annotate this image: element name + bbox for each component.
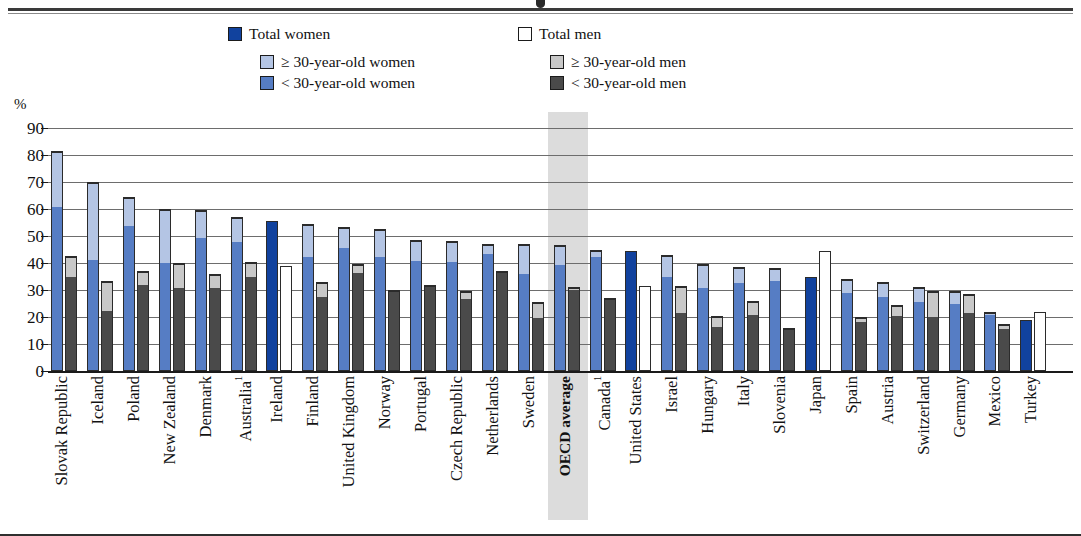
segment-women-30-plus xyxy=(591,251,601,258)
y-tick-label-10: 10 xyxy=(0,336,44,353)
bar-women xyxy=(410,240,422,371)
bar-women xyxy=(877,282,889,371)
segment-women-under-30 xyxy=(591,257,601,370)
y-tickmark-10 xyxy=(41,344,48,345)
bar-group xyxy=(159,128,185,371)
bar-group xyxy=(949,128,975,371)
title-descender-mark xyxy=(536,0,545,8)
segment-women-under-30 xyxy=(842,293,852,370)
bar-group xyxy=(590,128,616,371)
segment-men-under-30 xyxy=(964,313,974,370)
bar-women xyxy=(590,250,602,372)
segment-women-30-plus xyxy=(124,198,134,226)
bar-men xyxy=(675,286,687,371)
bar-group xyxy=(625,128,651,371)
chart-legend: Total womenTotal men≥ 30-year-old women≥… xyxy=(228,24,928,93)
y-tick-label-0: 0 xyxy=(0,363,44,380)
bar-group xyxy=(302,128,328,371)
bar-men xyxy=(963,294,975,371)
segment-total-men xyxy=(1035,313,1045,370)
bar-women xyxy=(841,279,853,371)
segment-men-30-plus xyxy=(353,265,363,273)
bar-women xyxy=(625,251,637,371)
legend-row: < 30-year-old women< 30-year-old men xyxy=(228,73,928,93)
segment-women-under-30 xyxy=(698,288,708,370)
x-axis-label: United Kingdom xyxy=(341,376,358,487)
legend-swatch-women-under-30 xyxy=(260,76,274,90)
bar-group xyxy=(1020,128,1046,371)
bar-men xyxy=(604,298,616,371)
y-tickmark-60 xyxy=(41,209,48,210)
bar-group xyxy=(266,128,292,371)
y-tick-label-60: 60 xyxy=(0,201,44,218)
segment-women-under-30 xyxy=(160,263,170,370)
bar-men xyxy=(532,302,544,371)
top-rule xyxy=(8,8,1073,11)
segment-total-women xyxy=(806,278,816,371)
segment-men-30-plus xyxy=(892,306,902,317)
bar-men xyxy=(352,264,364,371)
bar-group xyxy=(446,128,472,371)
bar-group xyxy=(984,128,1010,371)
y-tickmark-0 xyxy=(41,371,48,372)
segment-men-30-plus xyxy=(748,302,758,315)
segment-women-under-30 xyxy=(411,261,421,370)
bar-women xyxy=(266,221,278,371)
legend-row: ≥ 30-year-old women≥ 30-year-old men xyxy=(228,52,928,72)
legend-item-men-30-plus: ≥ 30-year-old men xyxy=(518,52,818,72)
segment-total-men xyxy=(820,252,830,370)
y-tick-label-40: 40 xyxy=(0,255,44,272)
segment-women-under-30 xyxy=(878,297,888,370)
segment-women-30-plus xyxy=(950,292,960,304)
segment-women-30-plus xyxy=(842,280,852,293)
y-tick-label-50: 50 xyxy=(0,228,44,245)
segment-men-30-plus xyxy=(712,317,722,327)
segment-women-30-plus xyxy=(339,228,349,248)
segment-women-under-30 xyxy=(124,226,134,370)
x-axis-label: Sweden xyxy=(521,376,538,428)
x-axis-label: Japan xyxy=(808,376,825,414)
legend-swatch-men-30-plus xyxy=(550,55,564,69)
y-tickmark-40 xyxy=(41,263,48,264)
x-axis-label: Spain xyxy=(844,376,861,414)
bar-group xyxy=(733,128,759,371)
x-axis-label: Germany xyxy=(952,376,969,437)
bar-men xyxy=(137,271,149,371)
bar-women xyxy=(518,244,530,371)
segment-men-under-30 xyxy=(784,330,794,370)
segment-men-under-30 xyxy=(353,273,363,370)
segment-women-under-30 xyxy=(88,260,98,370)
segment-men-30-plus xyxy=(210,275,220,288)
x-axis-label: Israel xyxy=(664,376,681,413)
y-tickmark-20 xyxy=(41,317,48,318)
bar-women xyxy=(1020,320,1032,371)
bar-men xyxy=(101,281,113,371)
x-axis-label: Slovak Republic xyxy=(54,376,71,486)
bar-women xyxy=(661,255,673,371)
bar-women xyxy=(51,151,63,371)
legend-swatch-men-under-30 xyxy=(550,76,564,90)
segment-men-under-30 xyxy=(928,317,938,370)
segment-women-30-plus xyxy=(411,241,421,261)
segment-women-under-30 xyxy=(662,277,672,370)
segment-men-under-30 xyxy=(138,285,148,370)
bar-men xyxy=(998,324,1010,371)
chart-page: Total womenTotal men≥ 30-year-old women≥… xyxy=(0,0,1081,536)
segment-men-under-30 xyxy=(533,318,543,370)
segment-women-30-plus xyxy=(88,183,98,260)
segment-women-30-plus xyxy=(519,245,529,274)
bar-women xyxy=(231,217,243,371)
segment-men-under-30 xyxy=(856,322,866,370)
legend-swatch-women-30-plus xyxy=(260,55,274,69)
plot-area: 9080706050403020100 xyxy=(48,128,1073,371)
segment-men-30-plus xyxy=(66,257,76,277)
segment-women-under-30 xyxy=(232,242,242,370)
bar-group xyxy=(410,128,436,371)
bar-women xyxy=(697,264,709,371)
segment-women-under-30 xyxy=(483,254,493,370)
segment-men-30-plus xyxy=(676,287,686,313)
x-axis-label: United States xyxy=(628,376,645,464)
gridline-0 xyxy=(48,371,1073,373)
segment-women-under-30 xyxy=(734,283,744,370)
legend-label-total-women: Total women xyxy=(249,24,330,44)
